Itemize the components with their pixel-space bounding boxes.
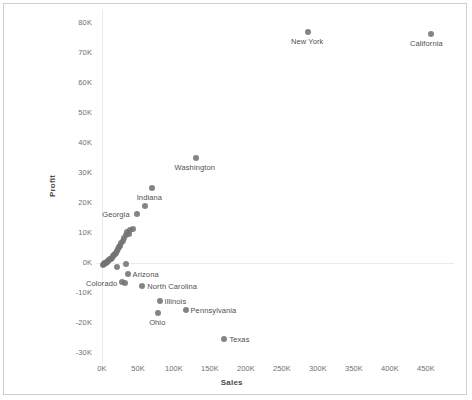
data-point[interactable]	[119, 279, 125, 285]
y-tick-30K: 30K	[58, 168, 92, 177]
data-point[interactable]	[100, 262, 106, 268]
point-label-pennsylvania: Pennsylvania	[191, 306, 237, 315]
data-point[interactable]	[123, 261, 129, 267]
y-tick--10K: -10K	[58, 288, 92, 297]
y-tick-20K: 20K	[58, 198, 92, 207]
point-label-new-york: New York	[291, 37, 324, 46]
data-point[interactable]	[142, 203, 148, 209]
data-point-illinois[interactable]	[157, 298, 163, 304]
y-tick--30K: -30K	[58, 348, 92, 357]
x-tick-0K: 0K	[82, 364, 122, 373]
data-point-arizona[interactable]	[125, 271, 131, 277]
x-tick-100K: 100K	[154, 364, 194, 373]
y-tick-80K: 80K	[58, 18, 92, 27]
data-point-north-carolina[interactable]	[139, 283, 145, 289]
x-tick-400K: 400K	[370, 364, 410, 373]
y-tick-10K: 10K	[58, 228, 92, 237]
x-tick-200K: 200K	[226, 364, 266, 373]
x-tick-350K: 350K	[334, 364, 374, 373]
data-point-california[interactable]	[428, 31, 434, 37]
gridline-x-0k	[102, 10, 103, 364]
y-axis-title: Profit	[48, 175, 57, 197]
data-point-ohio[interactable]	[155, 310, 161, 316]
data-point-washington[interactable]	[193, 155, 199, 161]
point-label-north-carolina: North Carolina	[147, 282, 197, 291]
x-tick-300K: 300K	[298, 364, 338, 373]
point-label-ohio: Ohio	[149, 318, 165, 327]
x-axis-title: Sales	[221, 378, 243, 387]
x-tick-250K: 250K	[262, 364, 302, 373]
data-point-texas[interactable]	[221, 336, 227, 342]
x-tick-450K: 450K	[406, 364, 446, 373]
y-tick-0K: 0K	[58, 258, 92, 267]
data-point-new-york[interactable]	[305, 29, 311, 35]
gridline-y-0k	[96, 263, 454, 264]
data-point-pennsylvania[interactable]	[183, 307, 189, 313]
point-label-arizona: Arizona	[133, 270, 159, 279]
x-tick-150K: 150K	[190, 364, 230, 373]
data-point-georgia[interactable]	[134, 211, 140, 217]
point-label-colorado: Colorado	[86, 279, 117, 288]
point-label-washington: Washington	[175, 163, 215, 172]
y-tick-40K: 40K	[58, 138, 92, 147]
data-point[interactable]	[114, 264, 120, 270]
x-tick-50K: 50K	[118, 364, 158, 373]
point-label-california: California	[410, 39, 443, 48]
y-tick-50K: 50K	[58, 108, 92, 117]
data-point-indiana[interactable]	[149, 185, 155, 191]
point-label-indiana: Indiana	[137, 193, 162, 202]
y-tick--20K: -20K	[58, 318, 92, 327]
y-tick-60K: 60K	[58, 78, 92, 87]
y-tick-70K: 70K	[58, 48, 92, 57]
scatter-plot-area[interactable]: 80K70K60K50K40K30K20K10K0K-10K-20K-30K 0…	[4, 4, 466, 394]
point-label-georgia: Georgia	[102, 210, 129, 219]
point-label-texas: Texas	[229, 335, 249, 344]
point-label-illinois: Illinois	[165, 297, 187, 306]
chart-frame: 80K70K60K50K40K30K20K10K0K-10K-20K-30K 0…	[3, 3, 467, 395]
